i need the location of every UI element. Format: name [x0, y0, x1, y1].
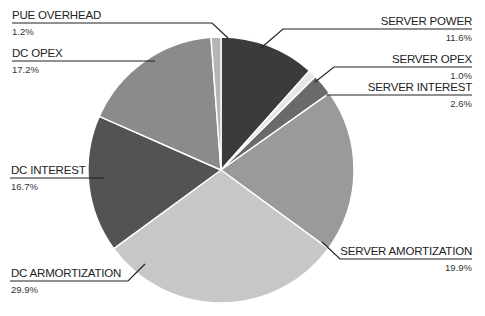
label-server-opex: SERVER OPEX: [392, 53, 472, 66]
label-dc-opex: DC OPEX: [12, 47, 62, 60]
pct-pue-overhead: 1.2%: [12, 26, 34, 37]
label-server-interest: SERVER INTEREST: [368, 81, 472, 94]
leader-line-pue-overhead: [12, 23, 228, 38]
label-dc-armortization: DC ARMORTIZATION: [11, 267, 121, 280]
leader-line-server-opex: [315, 67, 472, 82]
pct-server-interest: 2.6%: [450, 98, 472, 109]
label-dc-interest: DC INTEREST: [11, 164, 85, 177]
pct-dc-opex: 17.2%: [12, 64, 39, 75]
label-server-amortization: SERVER AMORTIZATION: [340, 245, 472, 258]
pct-server-amortization: 19.9%: [445, 262, 472, 273]
label-server-power: SERVER POWER: [381, 15, 472, 28]
pct-dc-armortization: 29.9%: [11, 284, 38, 295]
pct-dc-interest: 16.7%: [11, 181, 38, 192]
leader-line-server-power: [261, 29, 472, 48]
label-pue-overhead: PUE OVERHEAD: [12, 9, 101, 22]
pie-slices: [88, 37, 354, 303]
pct-server-power: 11.6%: [446, 32, 472, 43]
pct-server-opex: 1.0%: [450, 70, 472, 81]
